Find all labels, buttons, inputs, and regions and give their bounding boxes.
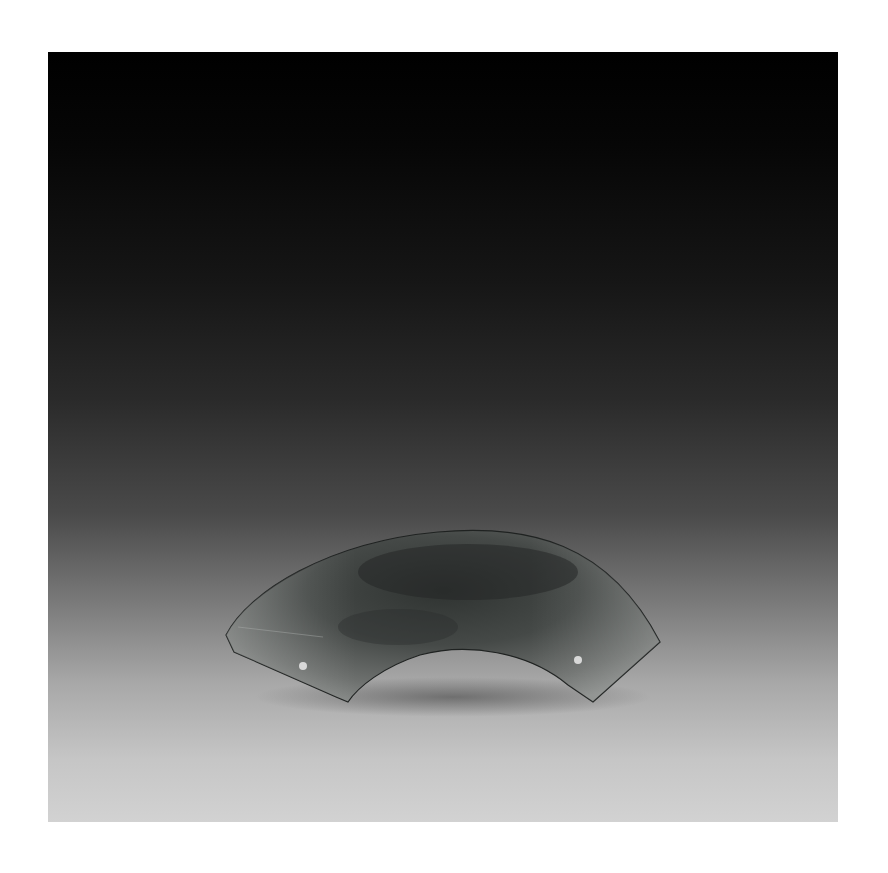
drilled-hole-left — [299, 662, 307, 670]
jade-pendant — [48, 52, 838, 822]
photograph — [48, 52, 838, 822]
drilled-hole-right — [574, 656, 582, 664]
